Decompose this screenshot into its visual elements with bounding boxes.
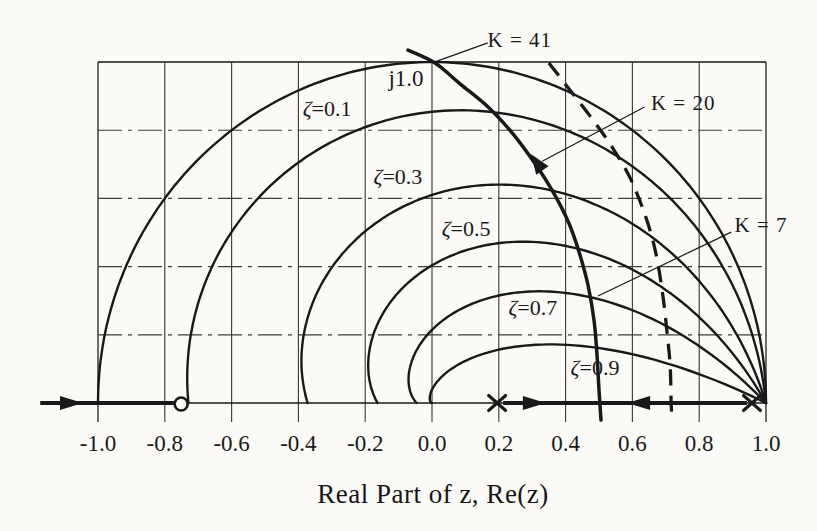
zeta-label: ζ=0.1	[303, 96, 352, 121]
zero-marker	[175, 398, 188, 411]
x-tick-label: -1.0	[80, 431, 116, 456]
locus-direction-arrow	[523, 396, 546, 410]
gain-label: K = 7	[734, 213, 787, 237]
z-plane-root-locus-chart: K = 41K = 20K = 7ζ=0.1ζ=0.3ζ=0.5ζ=0.7ζ=0…	[0, 0, 817, 531]
zeta-label: ζ=0.3	[374, 164, 423, 189]
locus-direction-arrow	[627, 396, 650, 410]
x-tick-label: -0.4	[280, 431, 317, 456]
gain-label: K = 41	[488, 28, 553, 52]
grid-layer	[98, 62, 766, 422]
x-tick-label: 0.2	[484, 431, 513, 456]
x-axis-title: Real Part of z, Re(z)	[317, 479, 549, 510]
x-tick-label: 0.4	[551, 431, 580, 456]
x-tick-label: 1.0	[752, 431, 781, 456]
root-locus-layer	[40, 50, 747, 420]
x-tick-label: 0.6	[618, 431, 647, 456]
zeta-label: ζ=0.7	[508, 295, 557, 320]
zeta-label: ζ=0.5	[442, 216, 491, 241]
zeta-curve-0.5	[368, 242, 766, 403]
locus-direction-arrow	[60, 396, 83, 410]
gain-leader-line	[598, 232, 731, 296]
zeta-label: ζ=0.9	[571, 355, 620, 380]
gain-leader-line	[436, 43, 487, 61]
imag-axis-marker-label: j1.0	[387, 66, 423, 91]
zeta-curve-0.3	[301, 185, 766, 403]
gain-leader-line	[542, 107, 644, 161]
gain-label: K = 20	[651, 91, 716, 115]
x-tick-label: 0.8	[685, 431, 714, 456]
x-tick-label: -0.6	[213, 431, 249, 456]
text-layer: K = 41K = 20K = 7ζ=0.1ζ=0.3ζ=0.5ζ=0.7ζ=0…	[80, 28, 788, 456]
x-tick-label: -0.8	[147, 431, 183, 456]
x-tick-label: -0.2	[347, 431, 383, 456]
x-tick-label: 0.0	[418, 431, 447, 456]
scanned-figure-page: K = 41K = 20K = 7ζ=0.1ζ=0.3ζ=0.5ζ=0.7ζ=0…	[0, 0, 817, 531]
